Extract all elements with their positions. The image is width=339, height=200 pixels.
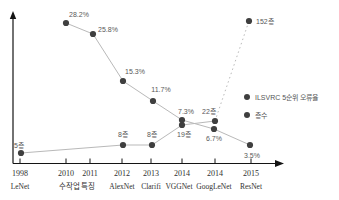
data-point-label: 6.7% — [206, 135, 222, 142]
data-point-dot — [247, 142, 253, 148]
series-line-segment — [66, 23, 93, 34]
ilsvrc-error-and-layers-chart: 1998LeNet201020112012AlexNet2013Clarifi2… — [0, 0, 339, 200]
data-point-dot — [246, 18, 252, 24]
data-point-dot — [179, 122, 185, 128]
data-point-label: 19층 — [177, 130, 192, 138]
data-point-label: 28.2% — [69, 11, 89, 18]
series-line-segment — [21, 145, 123, 153]
legend-label: ILSVRC 5순위 오류율 — [255, 94, 319, 102]
data-point-label: 7.3% — [178, 108, 194, 115]
legend-marker-dot-icon — [244, 94, 250, 100]
x-axis-network-label: LeNet — [11, 182, 31, 191]
data-point-dot — [90, 31, 96, 37]
x-axis-network-label: Clarifi — [141, 182, 161, 191]
x-axis-network-label: ResNet — [240, 182, 263, 191]
x-axis-network-label: GoogLeNet — [196, 182, 232, 191]
x-axis-year-label: 2014 — [207, 169, 223, 178]
x-axis-group-label: 수작업 특징 — [59, 181, 96, 191]
data-point-dot — [120, 142, 126, 148]
x-axis-year-label: 1998 — [12, 169, 28, 178]
chart-area: 1998LeNet201020112012AlexNet2013Clarifi2… — [0, 0, 339, 200]
data-point-dot — [211, 126, 217, 132]
data-point-dot — [149, 142, 155, 148]
legend-label: 층수 — [255, 111, 268, 120]
data-point-label: 8층 — [147, 130, 158, 138]
data-point-dot — [18, 150, 24, 156]
data-point-label: 15.3% — [125, 68, 145, 75]
x-axis-network-label: VGGNet — [165, 182, 193, 191]
data-point-label: 22층 — [202, 107, 217, 115]
data-point-dot — [150, 98, 156, 104]
series-line-segment — [215, 21, 249, 121]
data-point-label: 8층 — [118, 130, 129, 138]
series-line-segment — [93, 34, 123, 81]
data-point-label: 152층 — [256, 17, 275, 25]
x-axis-arrow-icon — [275, 160, 284, 167]
data-point-dot — [212, 118, 218, 124]
x-axis-year-label: 2015 — [243, 169, 259, 178]
x-axis-year-label: 2011 — [82, 169, 98, 178]
data-point-label: 3.5% — [244, 152, 260, 159]
data-point-dot — [63, 20, 69, 26]
data-point-label: 25.8% — [98, 26, 118, 33]
data-point-dot — [120, 78, 126, 84]
legend-marker-dot-icon — [244, 112, 250, 118]
x-axis-year-label: 2013 — [143, 169, 159, 178]
x-axis-year-label: 2014 — [174, 169, 190, 178]
x-axis-year-label: 2010 — [58, 169, 74, 178]
x-axis-network-label: AlexNet — [109, 182, 135, 191]
data-point-label: 5층 — [14, 141, 25, 149]
data-point-label: 11.7% — [151, 86, 170, 93]
y-axis-arrow-icon — [10, 11, 16, 19]
x-axis-year-label: 2012 — [114, 169, 130, 178]
series-line-segment — [123, 81, 153, 101]
